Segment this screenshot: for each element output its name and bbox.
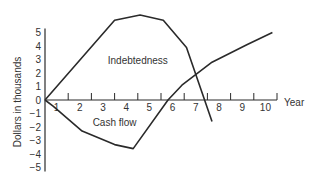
y-tick-label: −2 <box>30 122 42 133</box>
y-tick-label: 2 <box>35 68 41 79</box>
y-tick-label: −5 <box>30 162 42 173</box>
x-tick-label: 3 <box>100 102 106 113</box>
y-tick-label: 0 <box>35 95 41 106</box>
x-tick-label: 6 <box>170 102 176 113</box>
y-axis-label: Dollars in thousands <box>12 57 23 148</box>
chart: 543210−1−2−3−4−512345678910 Indebtedness… <box>0 0 313 184</box>
x-tick-label: 7 <box>193 102 199 113</box>
x-tick-label: 10 <box>260 102 272 113</box>
y-tick-label: 1 <box>35 81 41 92</box>
x-axis-label: Year <box>284 97 305 108</box>
line-chart: 543210−1−2−3−4−512345678910 Indebtedness… <box>0 0 313 184</box>
y-tick-label: 3 <box>35 54 41 65</box>
y-tick-label: 5 <box>35 27 41 38</box>
x-tick-label: 9 <box>239 102 245 113</box>
cash-flow-label: Cash flow <box>93 117 138 128</box>
y-tick-label: −3 <box>30 135 42 146</box>
indebtedness-label: Indebtedness <box>108 55 168 66</box>
y-tick-label: −1 <box>30 108 42 119</box>
x-tick-label: 4 <box>123 102 129 113</box>
x-tick-label: 5 <box>147 102 153 113</box>
y-tick-label: −4 <box>30 149 42 160</box>
x-tick-label: 8 <box>216 102 222 113</box>
x-tick-label: 2 <box>77 102 83 113</box>
series-lines <box>45 15 272 149</box>
cash-flow-line <box>45 33 272 149</box>
y-tick-label: 4 <box>35 41 41 52</box>
